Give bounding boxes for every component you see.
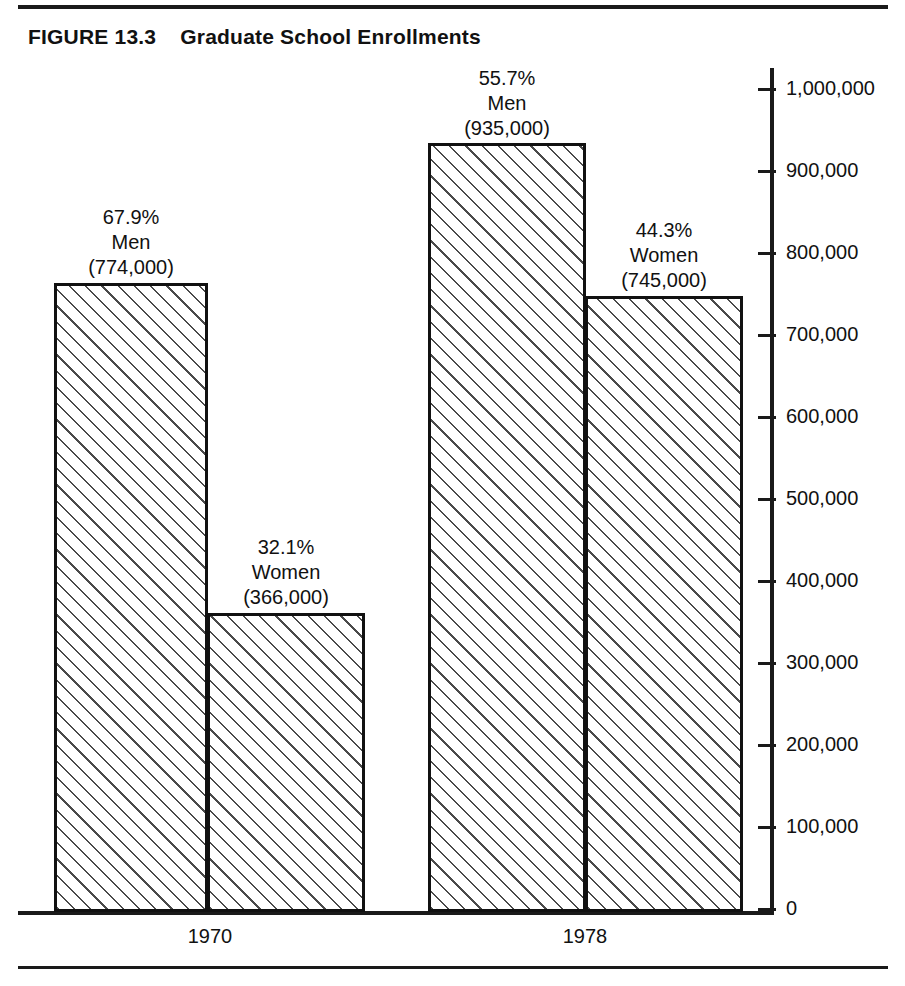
bar-label-1970-women: 32.1% Women (366,000) [206, 535, 366, 610]
bar-value-1970-men: (774,000) [51, 255, 211, 280]
y-tick-800000 [758, 252, 776, 255]
bottom-horizontal-rule [18, 966, 888, 969]
bar-label-1970-men: 67.9% Men (774,000) [51, 205, 211, 280]
y-axis-line [770, 68, 774, 915]
y-tick-label-800000: 800,000 [786, 242, 858, 262]
y-tick-label-500000: 500,000 [786, 488, 858, 508]
y-tick-label-600000: 600,000 [786, 406, 858, 426]
bar-chart: 1,000,000 900,000 800,000 700,000 600,00… [0, 0, 905, 986]
bar-label-1978-men: 55.7% Men (935,000) [427, 66, 587, 141]
y-tick-1000000 [758, 88, 776, 91]
y-tick-label-200000: 200,000 [786, 734, 858, 754]
y-tick-label-700000: 700,000 [786, 324, 858, 344]
bar-1970-men[interactable] [54, 283, 208, 912]
bar-1970-women[interactable] [207, 613, 365, 912]
bar-value-1970-women: (366,000) [206, 585, 366, 610]
bar-label-1978-women: 44.3% Women (745,000) [584, 218, 744, 293]
y-tick-label-0: 0 [786, 898, 797, 918]
y-tick-200000 [758, 744, 776, 747]
y-tick-label-300000: 300,000 [786, 652, 858, 672]
bar-percent-1978-men: 55.7% [427, 66, 587, 91]
bar-percent-1978-women: 44.3% [584, 218, 744, 243]
bar-percent-1970-men: 67.9% [51, 205, 211, 230]
y-tick-label-400000: 400,000 [786, 570, 858, 590]
y-tick-700000 [758, 334, 776, 337]
bar-series-1970-men: Men [51, 230, 211, 255]
y-tick-300000 [758, 662, 776, 665]
y-tick-100000 [758, 826, 776, 829]
x-tick-label-1970: 1970 [130, 925, 290, 948]
bar-1978-men[interactable] [428, 143, 586, 912]
y-tick-label-100000: 100,000 [786, 816, 858, 836]
bar-series-1978-women: Women [584, 243, 744, 268]
bar-1978-women[interactable] [585, 296, 743, 912]
y-tick-label-900000: 900,000 [786, 160, 858, 180]
bar-percent-1970-women: 32.1% [206, 535, 366, 560]
y-tick-label-1000000: 1,000,000 [786, 78, 875, 98]
bar-series-1970-women: Women [206, 560, 366, 585]
bar-series-1978-men: Men [427, 91, 587, 116]
y-tick-400000 [758, 580, 776, 583]
x-tick-label-1978: 1978 [505, 925, 665, 948]
y-tick-0 [758, 908, 776, 911]
y-tick-500000 [758, 498, 776, 501]
y-tick-900000 [758, 170, 776, 173]
bar-value-1978-women: (745,000) [584, 268, 744, 293]
y-tick-600000 [758, 416, 776, 419]
bar-value-1978-men: (935,000) [427, 116, 587, 141]
